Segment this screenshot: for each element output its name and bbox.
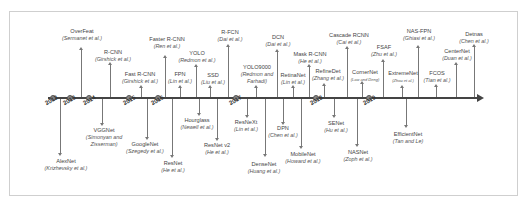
milestone-name: RefineDet <box>312 68 344 75</box>
milestone-name: FSAF <box>371 44 397 51</box>
milestone-name: Faster R-CNN <box>149 36 184 43</box>
milestone-name: SSD <box>201 72 225 79</box>
milestone-authors: (Zoph et al.) <box>343 156 372 163</box>
milestone-authors: (Zhou et al.) <box>388 77 418 84</box>
stem-rcnn <box>110 64 111 97</box>
stem-resnext <box>247 99 248 116</box>
milestone-name: Mask R-CNN <box>294 51 327 58</box>
milestone-authors-line2: Farhadi) <box>241 78 274 85</box>
milestone-name: FCOS <box>423 70 450 77</box>
milestone-name: DenseNet <box>248 161 281 168</box>
milestone-fsaf: FSAF (Zhu et al.) <box>371 44 397 58</box>
stem-cornernet <box>362 83 363 97</box>
milestone-authors: (Tian et al.) <box>423 77 450 84</box>
stem-retinanet <box>293 87 294 97</box>
milestone-authors: (Dai et al.) <box>266 41 291 48</box>
milestone-authors: (Liu et al.) <box>201 79 225 86</box>
milestone-authors: (Hu et al.) <box>324 127 348 134</box>
milestone-alexnet: AlexNet (Krizhevsky et al.) <box>45 158 88 172</box>
milestone-cascade-rcnn: Cascade RCNN (Cai et al.) <box>329 32 369 46</box>
milestone-authors: (He et al.) <box>161 167 185 174</box>
stem-centernet <box>456 64 457 97</box>
milestone-centernet: CenterNet (Duan et al.) <box>442 48 472 62</box>
stem-nasnet <box>357 99 358 145</box>
stem-faster-rcnn <box>165 57 166 97</box>
milestone-authors: (He et al.) <box>294 58 327 65</box>
milestone-nas-fpn: NAS-FPN (Ghiasi et al.) <box>403 28 435 42</box>
milestone-name: SENet <box>324 120 348 127</box>
milestone-resnet-v2: ResNet v2 (He et al.) <box>204 142 230 156</box>
milestone-ssd: SSD (Liu et al.) <box>201 72 225 86</box>
milestone-name: Cascade RCNN <box>329 32 369 39</box>
milestone-authors: (Girshick et al.) <box>95 56 131 63</box>
milestone-name: VGGNet <box>86 127 122 134</box>
milestone-cornernet: CornerNet (Law and Deng) <box>351 69 379 83</box>
milestone-authors: (Zhu et al.) <box>371 51 397 58</box>
milestone-name: ResNeXt <box>234 119 258 126</box>
milestone-name: NASNet <box>343 149 372 156</box>
milestone-authors: (Lin et al.) <box>234 126 258 133</box>
milestone-fpn: FPN (Lin et al.) <box>168 71 192 85</box>
milestone-overfeat: OverFeat (Sermanet et al.) <box>62 28 102 42</box>
milestone-authors-line2: Zisserman) <box>86 141 122 148</box>
milestone-authors: (Lin et al.) <box>168 78 192 85</box>
stem-r-fcn <box>228 46 229 97</box>
milestone-authors: (He et al.) <box>204 149 230 156</box>
milestone-fcos: FCOS (Tian et al.) <box>423 70 450 84</box>
milestone-name: R-FCN <box>218 29 243 36</box>
milestone-nasnet: NASNet (Zoph et al.) <box>343 149 372 163</box>
milestone-r-fcn: R-FCN (Dai et al.) <box>218 29 243 43</box>
milestone-name: YOLO9000 <box>241 64 274 71</box>
milestone-authors: (Chen et al.) <box>459 38 489 45</box>
milestone-authors: (Zhang et al.) <box>312 75 344 82</box>
milestone-efficientnet: EfficientNet (Tan and Le) <box>393 131 423 145</box>
milestone-rcnn: R-CNN (Girshick et al.) <box>95 49 131 63</box>
milestone-mask-rcnn: Mask R-CNN (He et al.) <box>294 51 327 65</box>
milestone-authors: (Ghiasi et al.) <box>403 35 435 42</box>
milestone-name: DPN <box>268 125 298 132</box>
stem-fsaf <box>383 61 384 97</box>
stem-densenet <box>265 99 266 155</box>
milestone-retinanet: RetinaNet (Lin et al.) <box>281 72 306 86</box>
milestone-authors: (Krizhevsky et al.) <box>45 165 88 172</box>
milestone-densenet: DenseNet (Huang et al.) <box>248 161 281 175</box>
milestone-name: ResNet v2 <box>204 142 230 149</box>
milestone-name: OverFeat <box>62 28 102 35</box>
milestone-name: GoogleNet <box>126 141 164 148</box>
milestone-name: MobileNet <box>285 151 320 158</box>
stem-ssd <box>210 87 211 97</box>
stem-yolo9000 <box>256 87 257 97</box>
milestone-name: YOLO <box>178 50 215 57</box>
milestone-extremenet: ExtremeNet (Zhou et al.) <box>388 70 418 84</box>
stem-overfeat <box>81 49 82 97</box>
milestone-name: ExtremeNet <box>388 70 418 77</box>
milestone-name: R-CNN <box>95 49 131 56</box>
stem-cascade-rcnn <box>347 48 348 97</box>
stem-fast-rcnn <box>141 87 142 97</box>
milestone-name: NAS-FPN <box>403 28 435 35</box>
milestone-resnet: ResNet (He et al.) <box>161 160 185 174</box>
stem-mobilenet <box>301 99 302 147</box>
stem-fpn <box>180 87 181 97</box>
milestone-name: RetinaNet <box>281 72 306 79</box>
milestone-name: Fast R-CNN <box>122 71 158 78</box>
milestone-authors: (Szegedy et al.) <box>126 148 164 155</box>
timeline-axis <box>48 97 478 99</box>
stem-googlenet <box>147 99 148 138</box>
stem-resnet <box>172 99 173 156</box>
milestone-authors: (Sermanet et al.) <box>62 35 102 42</box>
milestone-detnas: Detnas (Chen et al.) <box>459 31 489 45</box>
stem-vggnet <box>102 99 103 124</box>
milestone-authors: (Simonyan and <box>86 134 122 141</box>
milestone-faster-rcnn: Faster R-CNN (Ren et al.) <box>149 36 184 50</box>
milestone-dpn: DPN (Chen et al.) <box>268 125 298 139</box>
milestone-name: EfficientNet <box>393 131 423 138</box>
arrow-head-icon <box>477 94 484 102</box>
milestone-name: CornerNet <box>351 69 379 76</box>
stem-alexnet <box>60 99 61 154</box>
stem-mask-rcnn <box>309 66 310 97</box>
milestone-googlenet: GoogleNet (Szegedy et al.) <box>126 141 164 155</box>
milestone-name: CenterNet <box>442 48 472 55</box>
milestone-authors: (Cai et al.) <box>329 39 369 46</box>
stem-dcn <box>277 51 278 97</box>
